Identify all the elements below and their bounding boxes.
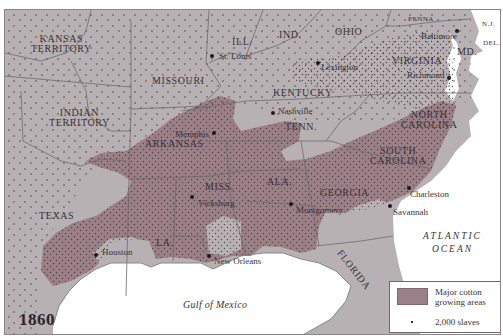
atlantic-line: ATLANTIC	[423, 232, 482, 242]
state-label-texas: TEXAS	[39, 211, 74, 221]
cotton-area-swatch	[397, 288, 428, 305]
state-label-south-carolina: SOUTH CAROLINA	[370, 146, 426, 166]
state-label-delaware: DEL.	[483, 40, 500, 47]
city-label-houston: Houston	[102, 248, 133, 257]
legend-cotton-line2: growing areas	[435, 297, 486, 307]
state-label-line: TERRITORY	[49, 118, 110, 128]
state-label-kentucky: KENTUCKY	[273, 88, 333, 98]
state-label-line: CAROLINA	[401, 120, 457, 130]
state-label-maryland: MD.	[457, 47, 477, 57]
state-label-missouri: MISSOURI	[152, 76, 205, 86]
state-label-alabama: ALA.	[267, 177, 292, 187]
ocean-line: OCEAN	[423, 245, 482, 255]
state-label-pennsylvania: PENNA	[408, 16, 434, 23]
state-label-indiana: IND.	[279, 30, 302, 40]
legend-cotton-line1: Major cotton	[435, 287, 486, 297]
city-label-richmond: Richmond	[407, 71, 445, 80]
state-label-arkansas: ARKANSAS	[145, 139, 204, 149]
legend-dot-label: 2,000 slaves	[435, 317, 480, 327]
city-label-vicksburg: Vicksburg	[198, 199, 235, 208]
city-label-baltimore: Baltimore	[421, 32, 457, 41]
state-label-kansas: KANSAS TERRITORY	[31, 34, 92, 54]
atlantic-ocean-label: ATLANTIC OCEAN	[423, 232, 482, 254]
map-year: 1860	[19, 310, 55, 330]
city-label-nashville: Nashville	[278, 107, 313, 116]
state-label-illinois: ILL.	[232, 37, 252, 47]
state-label-indian-territory: INDIAN TERRITORY	[49, 108, 110, 128]
map-legend: Major cotton growing areas 2,000 slaves	[389, 281, 501, 333]
state-label-ohio: OHIO	[335, 27, 362, 37]
city-label-memphis: Memphis	[175, 130, 209, 139]
state-label-line: TERRITORY	[31, 44, 92, 54]
slave-dot-icon	[411, 321, 413, 323]
gulf-of-mexico-label: Gulf of Mexico	[183, 300, 247, 310]
city-label-lexington: Lexington	[321, 63, 358, 72]
city-label-montgomery: Montgomery	[296, 206, 343, 215]
legend-cotton-label: Major cotton growing areas	[435, 287, 486, 307]
state-label-tennessee: TENN.	[285, 122, 317, 132]
city-label-savannah: Savannah	[393, 208, 428, 217]
state-label-north-carolina: NORTH CAROLINA	[401, 110, 457, 130]
map-frame: KANSAS TERRITORY INDIAN TERRITORY MISSOU…	[4, 9, 501, 335]
city-label-charleston: Charleston	[410, 190, 449, 199]
state-label-line: CAROLINA	[370, 156, 426, 166]
state-label-georgia: GEORGIA	[320, 188, 369, 198]
state-label-virginia: VIRGINIA	[392, 56, 442, 66]
state-label-mississippi: MISS.	[205, 182, 234, 192]
city-label-st-louis: St. Louis	[219, 52, 252, 61]
state-label-louisiana: LA.	[156, 238, 174, 248]
city-label-new-orleans: New Orleans	[214, 257, 261, 266]
state-label-new-jersey: N.J.	[482, 21, 495, 28]
